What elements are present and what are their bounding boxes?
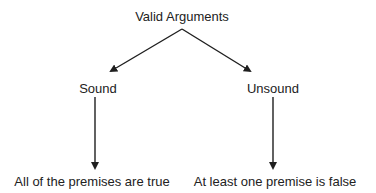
outcome-unsound: At least one premise is false <box>194 174 357 189</box>
outcome-sound: All of the premises are true <box>14 174 169 189</box>
root-node-valid-arguments: Valid Arguments <box>135 9 229 24</box>
arrow-root-to-sound <box>111 29 182 71</box>
arrow-root-to-unsound <box>182 29 250 71</box>
branch-node-unsound: Unsound <box>247 81 299 96</box>
argument-tree-connectors <box>0 0 376 193</box>
branch-node-sound: Sound <box>79 81 117 96</box>
